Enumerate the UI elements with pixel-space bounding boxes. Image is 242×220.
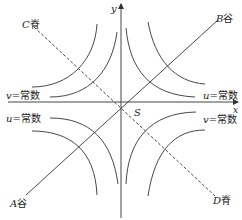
- valley-line-AB: [26, 20, 218, 195]
- ridge-D-letter: D: [213, 195, 221, 206]
- ridge-D-suffix: 脊: [221, 195, 231, 206]
- saddle-point-diagram: y x S C脊 B谷 A谷 D脊 v=常数 u=常数 u=常数 v=常数: [0, 0, 242, 220]
- curve-label-bottom-left: u=常数: [6, 114, 41, 124]
- valley-B-suffix: 谷: [223, 13, 233, 24]
- ridge-D-label: D脊: [213, 196, 231, 206]
- ridge-C-letter: C: [22, 19, 30, 30]
- hyperbola-curves: [32, 22, 205, 196]
- valley-A-label: A谷: [10, 199, 27, 209]
- curve-text: =常数: [12, 90, 40, 101]
- ridge-C-suffix: 脊: [30, 19, 40, 30]
- curve-text: =常数: [12, 113, 40, 124]
- valley-A-suffix: 谷: [17, 198, 27, 209]
- y-axis-label: y: [111, 4, 117, 14]
- ridge-line-CD: [34, 27, 215, 196]
- diagram-graphics: [0, 0, 242, 220]
- curve-text: =常数: [209, 114, 237, 125]
- ridge-C-label: C脊: [22, 20, 40, 30]
- curve-label-top-right: u=常数: [203, 91, 238, 101]
- saddle-point-label: S: [134, 108, 141, 118]
- curve-text: =常数: [209, 90, 237, 101]
- curve-label-bottom-right: v=常数: [203, 115, 237, 125]
- curve-label-top-left: v=常数: [6, 91, 40, 101]
- valley-B-label: B谷: [216, 14, 233, 24]
